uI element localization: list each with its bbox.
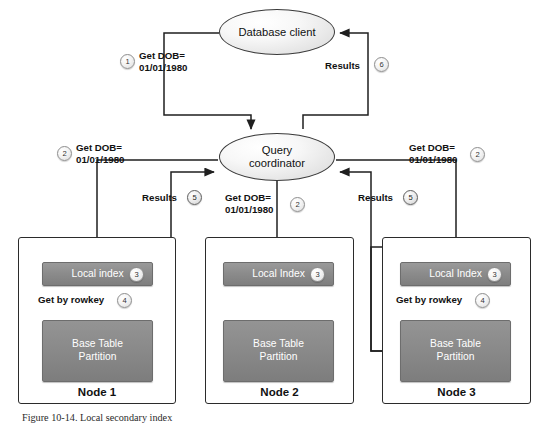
node-1-base-table-label-line1: Base Table	[72, 338, 123, 349]
node-3-base-table-label-line1: Base Table	[430, 338, 481, 349]
node-1-rowkey-badge-4: 4	[117, 293, 132, 308]
edge-label-coordinator-to-node1-line2: 01/01/1980	[76, 154, 125, 166]
step-badge-2-center: 2	[290, 197, 305, 212]
step-badge-5-right: 5	[403, 190, 418, 205]
query-coordinator-label-block: Query coordinator	[249, 144, 305, 169]
node-1-title: Node 1	[19, 386, 175, 398]
edge-label-node3-results: Results	[358, 192, 393, 203]
edge-label-node1-rowkey: Get by rowkey	[38, 294, 104, 305]
node-3-base-table-box[interactable]: Base Table Partition	[400, 320, 511, 382]
figure-caption: Figure 10-14. Local secondary index	[22, 412, 172, 423]
step-badge-5-left: 5	[187, 190, 202, 205]
node-2-base-table-label-line2: Partition	[260, 351, 298, 362]
edge-label-coordinator-to-node2-line1: Get DOB=	[225, 192, 274, 204]
node-2-index-badge-3: 3	[310, 267, 325, 282]
node-3-index-badge-3: 3	[487, 267, 502, 282]
node-1-base-table-box[interactable]: Base Table Partition	[42, 320, 153, 382]
node-3-local-index-label: Local Index	[429, 268, 482, 281]
node-2-base-table-label: Base Table Partition	[253, 338, 304, 364]
node-2-local-index-label: Local Index	[252, 268, 305, 281]
edge-label-coordinator-to-node3: Get DOB= 01/01/1980	[409, 142, 458, 165]
query-coordinator-node[interactable]: Query coordinator	[219, 133, 335, 181]
step-badge-2-left: 2	[57, 146, 72, 161]
edge-label-client-to-coordinator-line2: 01/01/1980	[139, 62, 188, 74]
node-2-base-table-label-line1: Base Table	[253, 338, 304, 349]
edge-label-coordinator-to-node1-line1: Get DOB=	[76, 142, 125, 154]
step-badge-2-right: 2	[470, 147, 485, 162]
node-3-title: Node 3	[383, 386, 530, 398]
edge-label-coordinator-to-node2-line2: 01/01/1980	[225, 204, 274, 216]
edge-label-coordinator-to-node3-line1: Get DOB=	[409, 142, 458, 154]
node-1-local-index-label: Local index	[71, 268, 123, 281]
node-1-base-table-label-line2: Partition	[79, 351, 117, 362]
query-coordinator-label-line1: Query	[249, 144, 305, 157]
node-1-base-table-label: Base Table Partition	[72, 338, 123, 364]
edge-label-client-to-coordinator-line1: Get DOB=	[139, 50, 188, 62]
node-3-rowkey-badge-4: 4	[475, 293, 490, 308]
edge-label-client-to-coordinator: Get DOB= 01/01/1980	[139, 50, 188, 73]
edge-label-coordinator-to-node3-line2: 01/01/1980	[409, 154, 458, 166]
node-2-title: Node 2	[206, 386, 353, 398]
edge-label-coordinator-to-node2: Get DOB= 01/01/1980	[225, 192, 274, 215]
step-badge-6: 6	[374, 57, 389, 72]
edge-label-coordinator-to-client: Results	[325, 60, 360, 71]
node-3-base-table-label: Base Table Partition	[430, 338, 481, 364]
query-coordinator-label-line2: coordinator	[249, 157, 305, 170]
node-3-base-table-label-line2: Partition	[437, 351, 475, 362]
step-badge-1: 1	[120, 54, 135, 69]
node-1-index-badge-3: 3	[129, 267, 144, 282]
edge-label-coordinator-to-node1: Get DOB= 01/01/1980	[76, 142, 125, 165]
database-client-label: Database client	[238, 26, 315, 39]
node-2-base-table-box[interactable]: Base Table Partition	[223, 320, 334, 382]
database-client-node[interactable]: Database client	[219, 9, 335, 55]
diagram-canvas: Database client Query coordinator Get DO…	[0, 0, 539, 432]
edge-label-node3-rowkey: Get by rowkey	[396, 294, 462, 305]
edge-label-node1-results: Results	[142, 192, 177, 203]
